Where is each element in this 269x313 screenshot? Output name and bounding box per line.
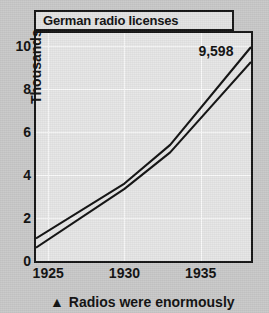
plot-area bbox=[34, 31, 253, 263]
chart-title-box: German radio licenses bbox=[34, 10, 234, 31]
y-axis-title: Thousands bbox=[28, 29, 44, 104]
series-line-upper bbox=[36, 47, 251, 238]
y-tick-label: 8 bbox=[3, 82, 31, 96]
y-tick-label: 10 bbox=[3, 39, 31, 53]
y-axis: 0246810 bbox=[0, 31, 31, 263]
y-tick-label: 2 bbox=[3, 211, 31, 225]
y-tick-label: 6 bbox=[3, 125, 31, 139]
caption-text: Radios were enormously bbox=[69, 294, 235, 310]
x-axis: 192519301935 bbox=[0, 266, 269, 286]
data-point-label: 9,598 bbox=[198, 43, 233, 59]
triangle-marker-icon: ▲ bbox=[50, 294, 64, 310]
plot-inner bbox=[36, 33, 251, 261]
x-tick-label: 1930 bbox=[109, 266, 140, 280]
chart-figure: German radio licenses 0246810 Thousands … bbox=[0, 0, 269, 313]
x-tick-label: 1935 bbox=[185, 266, 216, 280]
series-line-lower bbox=[36, 62, 251, 248]
x-tick-label: 1925 bbox=[33, 266, 64, 280]
y-tick-label: 4 bbox=[3, 168, 31, 182]
series-layer bbox=[36, 33, 251, 261]
chart-title: German radio licenses bbox=[36, 13, 178, 28]
figure-caption: ▲Radios were enormously bbox=[50, 294, 235, 310]
